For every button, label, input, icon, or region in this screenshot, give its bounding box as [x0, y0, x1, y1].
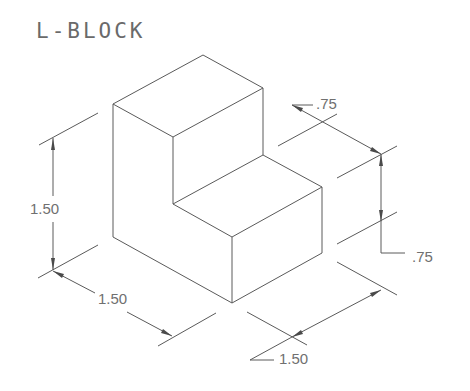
dim-label-depth-front-right: 1.50	[279, 350, 308, 367]
dim-label-height-left: 1.50	[30, 200, 59, 217]
dim-label-step-height: .75	[412, 248, 433, 265]
dim-label-step-depth: .75	[316, 95, 337, 112]
dimension-width-front-left	[53, 271, 216, 346]
isometric-drawing	[0, 0, 470, 391]
dimension-height-left	[38, 113, 98, 278]
dim-label-width-front-left: 1.50	[98, 290, 127, 307]
l-block-shape	[113, 55, 322, 303]
dimension-step-height	[337, 154, 405, 253]
dimension-step-depth	[278, 105, 397, 178]
dimension-depth-front-right	[247, 262, 397, 360]
